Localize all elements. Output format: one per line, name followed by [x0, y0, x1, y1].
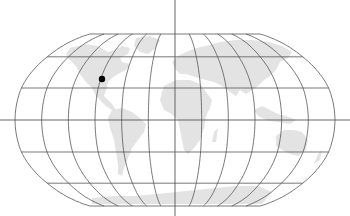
landmass-madagascar — [212, 128, 218, 142]
continent-africa — [160, 80, 212, 154]
continent-north-america — [66, 44, 130, 110]
map-markers — [99, 76, 105, 82]
location-marker-dot[interactable] — [99, 76, 105, 82]
continent-antarctica — [92, 186, 272, 204]
landmass-southeast-asia-islands — [254, 106, 296, 124]
world-map — [0, 0, 350, 216]
